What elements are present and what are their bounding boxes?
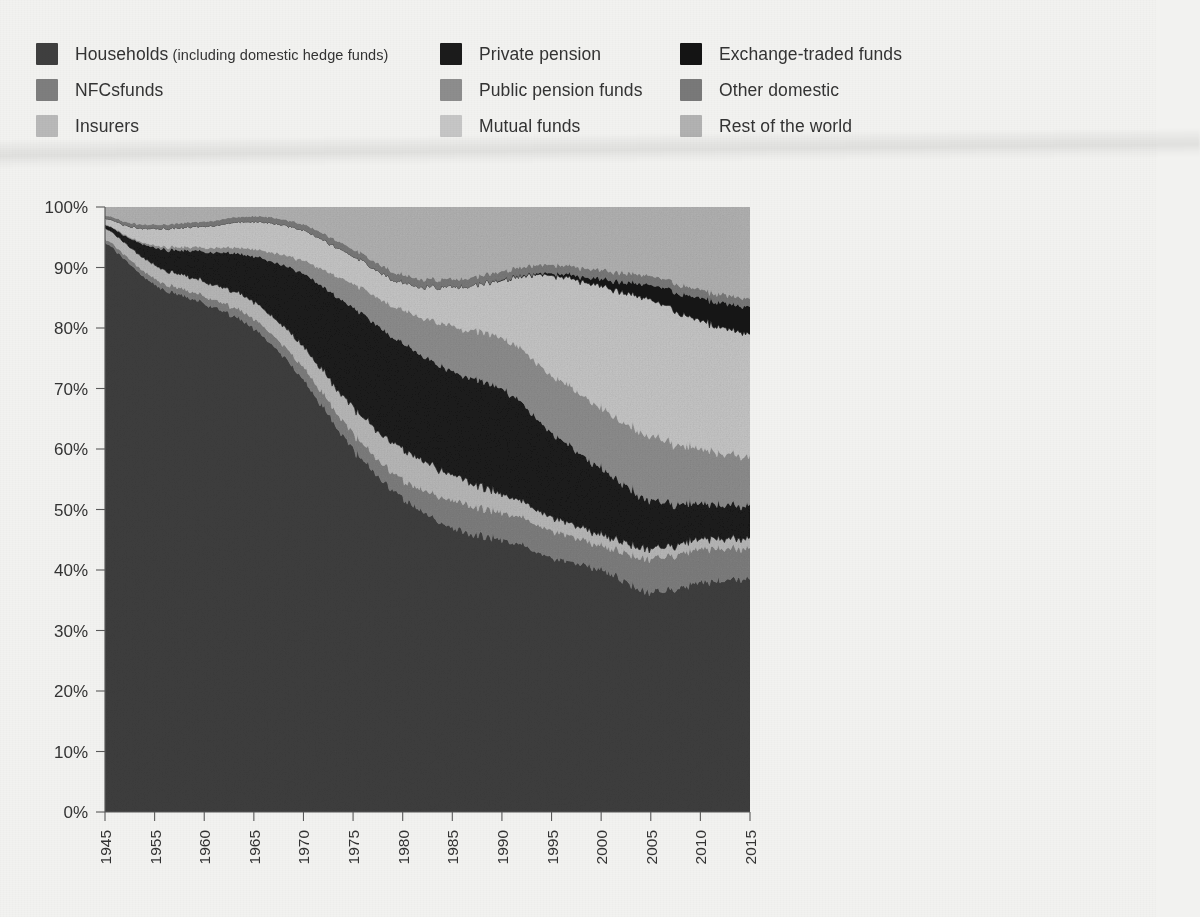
legend-label-other-domestic: Other domestic xyxy=(719,80,839,101)
legend-item-private-pension[interactable]: Private pension xyxy=(440,36,643,72)
y-tick-label: 100% xyxy=(45,198,88,217)
legend-swatch-public-pension-funds xyxy=(440,79,462,101)
legend-label-rest-of-the-world: Rest of the world xyxy=(719,116,852,137)
legend-label-households: Households (including domestic hedge fun… xyxy=(75,44,389,65)
y-tick-label: 80% xyxy=(54,319,88,338)
chart-areas xyxy=(105,207,750,812)
y-tick-label: 90% xyxy=(54,259,88,278)
legend-item-other-domestic[interactable]: Other domestic xyxy=(680,72,902,108)
legend-swatch-private-pension xyxy=(440,43,462,65)
x-tick-label: 2005 xyxy=(643,830,660,864)
x-tick-label: 1955 xyxy=(147,830,164,864)
legend-swatch-insurers xyxy=(36,115,58,137)
legend-item-nfcsfunds[interactable]: NFCsfunds xyxy=(36,72,389,108)
chart-legend: Households (including domestic hedge fun… xyxy=(0,36,1156,144)
legend-item-mutual-funds[interactable]: Mutual funds xyxy=(440,108,643,144)
x-tick-label: 1970 xyxy=(295,830,312,865)
legend-label-insurers: Insurers xyxy=(75,116,139,137)
x-axis-ticks: 1945195519601965197019751980198519901995… xyxy=(97,812,759,864)
legend-item-households[interactable]: Households (including domestic hedge fun… xyxy=(36,36,389,72)
legend-label-mutual-funds: Mutual funds xyxy=(479,116,580,137)
y-tick-label: 30% xyxy=(54,622,88,641)
x-tick-label: 1945 xyxy=(97,830,114,864)
y-tick-label: 70% xyxy=(54,380,88,399)
y-tick-label: 50% xyxy=(54,501,88,520)
x-tick-label: 1965 xyxy=(246,830,263,864)
x-tick-label: 1980 xyxy=(395,830,412,865)
legend-item-exchange-traded-funds[interactable]: Exchange-traded funds xyxy=(680,36,902,72)
x-tick-label: 1975 xyxy=(345,830,362,864)
y-tick-label: 60% xyxy=(54,440,88,459)
legend-label-exchange-traded-funds: Exchange-traded funds xyxy=(719,44,902,65)
legend-swatch-mutual-funds xyxy=(440,115,462,137)
legend-label-public-pension-funds: Public pension funds xyxy=(479,80,643,101)
legend-swatch-households xyxy=(36,43,58,65)
x-tick-label: 1960 xyxy=(196,830,213,865)
legend-swatch-nfcsfunds xyxy=(36,79,58,101)
y-tick-label: 10% xyxy=(54,743,88,762)
x-tick-label: 2010 xyxy=(692,830,709,865)
x-tick-label: 1985 xyxy=(444,830,461,864)
y-axis-ticks: 0%10%20%30%40%50%60%70%80%90%100% xyxy=(45,198,105,822)
legend-item-insurers[interactable]: Insurers xyxy=(36,108,389,144)
legend-item-public-pension-funds[interactable]: Public pension funds xyxy=(440,72,643,108)
legend-label-private-pension: Private pension xyxy=(479,44,601,65)
x-tick-label: 1995 xyxy=(544,830,561,864)
y-tick-label: 20% xyxy=(54,682,88,701)
legend-swatch-rest-of-the-world xyxy=(680,115,702,137)
y-tick-label: 0% xyxy=(63,803,88,822)
x-tick-label: 1990 xyxy=(494,830,511,865)
legend-swatch-other-domestic xyxy=(680,79,702,101)
legend-column-2: Private pension Public pension funds Mut… xyxy=(440,36,643,144)
legend-column-1: Households (including domestic hedge fun… xyxy=(36,36,389,144)
legend-label-nfcsfunds: NFCsfunds xyxy=(75,80,163,101)
legend-column-3: Exchange-traded funds Other domestic Res… xyxy=(680,36,902,144)
x-tick-label: 2015 xyxy=(742,830,759,864)
legend-item-rest-of-the-world[interactable]: Rest of the world xyxy=(680,108,902,144)
x-tick-label: 2000 xyxy=(593,830,610,865)
legend-swatch-exchange-traded-funds xyxy=(680,43,702,65)
y-tick-label: 40% xyxy=(54,561,88,580)
